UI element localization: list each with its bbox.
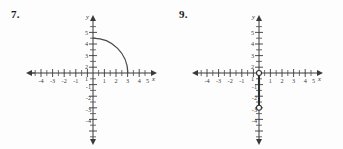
problem-7: 7.	[0, 0, 172, 149]
problem-9: 9.	[171, 0, 343, 149]
y-axis-arrow-down-icon	[256, 139, 262, 145]
y-axis-arrow-icon	[90, 15, 96, 21]
y-tick-label: -1	[86, 83, 91, 90]
x-tick-label: 2	[280, 77, 283, 84]
y-tick-label: 2	[251, 63, 254, 70]
y-tick-label: 2	[85, 63, 88, 70]
y-tick-label: 1	[251, 75, 254, 82]
x-tick-label: 4	[304, 77, 307, 84]
x-tick-label: 1	[103, 77, 106, 84]
x-tick-label: 4	[138, 77, 141, 84]
y-tick-label: -3	[86, 106, 91, 113]
x-tick-label: -2	[62, 77, 67, 84]
x-tick-label: -3	[216, 77, 221, 84]
x-tick-label: 2	[114, 77, 117, 84]
open-point-minus-three	[257, 105, 262, 110]
x-tick-label: -2	[228, 77, 233, 84]
y-tick-label: 4	[85, 40, 88, 47]
x-axis-arrow-left-icon	[192, 70, 198, 76]
x-tick-label: -1	[73, 77, 78, 84]
y-tick-label: 5	[251, 29, 254, 36]
x-tick-label: -4	[38, 77, 43, 84]
worksheet-page: 7.	[0, 0, 343, 149]
y-tick-label: -2	[252, 94, 257, 101]
x-tick-label: -1	[239, 77, 244, 84]
y-axis-label: y	[85, 13, 89, 20]
x-axis-label: x	[151, 75, 155, 82]
x-tick-label: -3	[50, 77, 55, 84]
x-tick-label: 3	[126, 77, 129, 84]
x-tick-label: 5	[312, 77, 315, 84]
x-axis-label: x	[317, 75, 321, 82]
y-tick-label: 3	[85, 52, 88, 59]
y-axis-arrow-icon	[256, 15, 262, 21]
y-tick-label: 1	[85, 75, 88, 82]
y-tick-label: 3	[251, 52, 254, 59]
y-tick-label: -2	[86, 94, 91, 101]
y-tick-label: -4	[252, 117, 257, 124]
x-tick-label: 1	[269, 77, 272, 84]
x-tick-label: -4	[204, 77, 209, 84]
quarter-circle-curve	[93, 38, 128, 73]
y-tick-label: 4	[251, 40, 254, 47]
y-axis-arrow-down-icon	[90, 139, 96, 145]
x-tick-label: 3	[292, 77, 295, 84]
x-axis-arrow-left-icon	[26, 70, 32, 76]
problem-9-graph: -4 -3 -2 -1 1 2 3 4 5 5 4 3 2 1 -1 -2 -3…	[171, 0, 343, 149]
y-tick-label: -1	[252, 83, 257, 90]
y-tick-label: -4	[86, 117, 91, 124]
y-tick-label: 5	[85, 29, 88, 36]
open-point-origin	[257, 71, 262, 76]
x-tick-label: 5	[146, 77, 149, 84]
problem-7-graph: -4 -3 -2 -1 1 2 3 4 5 5 4 3 2 1 -1 -2 -3…	[0, 0, 172, 149]
y-axis-label: y	[251, 13, 255, 20]
